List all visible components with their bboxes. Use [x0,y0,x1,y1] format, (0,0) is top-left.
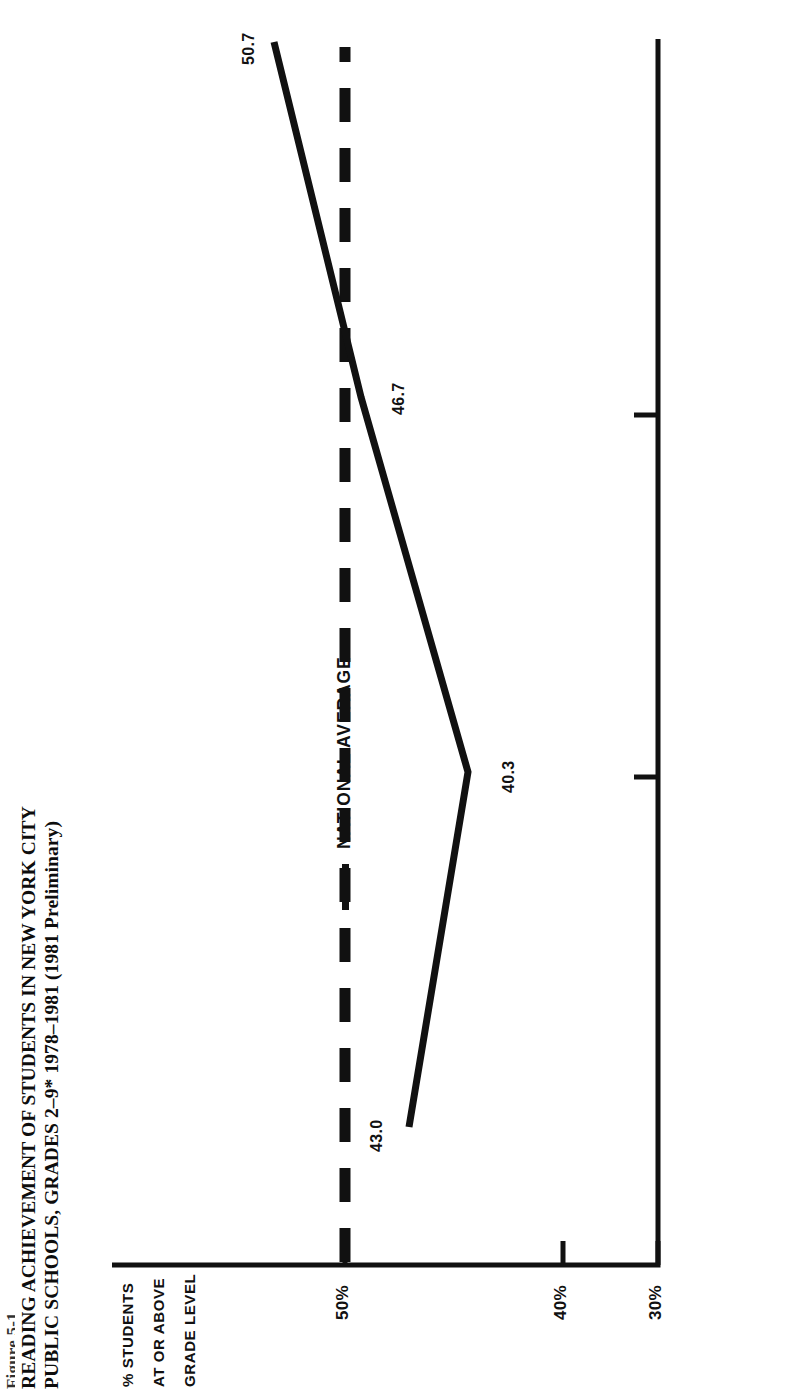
point-label-1981: 50.7 [240,33,258,65]
point-label-1978: 43.0 [368,1120,386,1152]
tick-label-30: 30% [646,1285,666,1355]
value-axis-ticks [345,1241,658,1265]
point-label-1979: 40.3 [500,761,518,793]
tick-label-40: 40% [551,1285,571,1355]
national-average-swatch [342,864,349,910]
national-average-label: NATIONAL AVERAGE [334,656,355,849]
point-label-1980: 46.7 [390,383,408,415]
chart-svg [0,0,787,1397]
rotated-figure-canvas: Figure 5-1 READING ACHIEVEMENT OF STUDEN… [0,0,787,1397]
figure: Figure 5-1 READING ACHIEVEMENT OF STUDEN… [0,0,787,1397]
axis-lines [112,39,658,1265]
axes [112,39,658,1265]
category-axis-ticks [634,415,658,777]
plot-area: 50% 40% 30% 43.0 40.3 46.7 50.7 NATIONAL… [0,0,787,1397]
data-series-line [274,42,468,1127]
tick-label-50: 50% [333,1285,353,1355]
